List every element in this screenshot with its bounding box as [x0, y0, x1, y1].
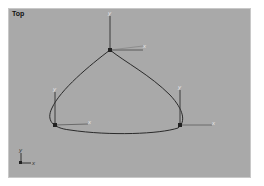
spline-shape[interactable] [50, 50, 183, 134]
transform-gizmo-left[interactable]: y x [52, 86, 92, 127]
gizmo-left-x-label: x [87, 119, 92, 125]
world-axis-x-label: x [31, 160, 36, 166]
world-axis-y-label: y [18, 147, 23, 153]
gizmo-right-x-label: x [211, 120, 216, 126]
gizmo-right-y-label: y [177, 84, 182, 90]
viewport-scene: y x y x y x y x [0, 0, 264, 186]
gizmo-top-x-label: x [142, 43, 147, 49]
gizmo-left-y-label: y [52, 86, 57, 92]
world-axis-icon: y x [18, 147, 36, 166]
gizmo-top-y-label: y [107, 10, 112, 16]
transform-gizmo-top[interactable]: y x [107, 10, 147, 52]
